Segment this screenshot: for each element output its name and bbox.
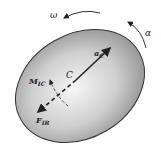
center-label: C — [66, 70, 73, 80]
rigid-body-diagram: ω α aC C FIR MIC — [0, 0, 161, 150]
alpha-label: α — [145, 28, 151, 38]
omega-label: ω — [50, 10, 58, 20]
angular-velocity-arrow — [64, 11, 100, 18]
